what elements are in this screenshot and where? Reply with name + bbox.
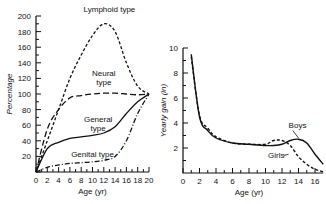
- x-tick-label: 4: [56, 176, 61, 185]
- x-tick-label: 6: [230, 177, 235, 186]
- y-tick-label: 120: [18, 74, 32, 83]
- x-tick-label: 8: [79, 176, 84, 185]
- annotation-general: General: [84, 115, 113, 124]
- y-axis-label: Yearly gain (in): [159, 83, 168, 137]
- left-chart: [36, 16, 149, 172]
- growth-charts: 2040608010012014016018020002468101214161…: [0, 0, 326, 204]
- y-tick-label: 40: [22, 137, 31, 146]
- x-tick-label: 10: [88, 176, 97, 185]
- y-tick-label: 100: [18, 90, 32, 99]
- y-tick-label: 20: [22, 152, 31, 161]
- x-axis-label: Age (yr): [235, 188, 264, 197]
- annotation-neural-type: type: [96, 78, 112, 87]
- annotation-lymphoid: Lymphoid type: [84, 5, 136, 14]
- y-tick-label: 80: [22, 106, 31, 115]
- annotation-general-type: type: [91, 124, 107, 133]
- x-tick-label: 18: [133, 176, 142, 185]
- series-general-type: [36, 94, 149, 172]
- y-tick-label: 160: [18, 43, 32, 52]
- y-tick-label: 8: [174, 69, 179, 78]
- x-tick-label: 8: [247, 177, 252, 186]
- x-tick-label: 16: [122, 176, 131, 185]
- series-genital-type: [36, 94, 149, 172]
- y-axis-label: Percentage: [5, 73, 14, 114]
- y-tick-label: 10: [169, 44, 178, 53]
- x-tick-label: 14: [111, 176, 120, 185]
- right-chart: [183, 48, 323, 173]
- y-tick-label: 180: [18, 28, 32, 37]
- annotation-genital: Genital type: [71, 150, 114, 159]
- x-tick-label: 0: [34, 176, 39, 185]
- x-tick-label: 4: [214, 177, 219, 186]
- x-tick-label: 12: [278, 177, 287, 186]
- right-axes: [183, 48, 323, 173]
- x-tick-label: 16: [311, 177, 320, 186]
- x-tick-label: 10: [261, 177, 270, 186]
- annotation-girls: Girls: [268, 151, 284, 160]
- x-axis-label: Age (yr): [78, 187, 107, 196]
- annotation-boys: Boys: [289, 121, 307, 130]
- x-tick-label: 2: [45, 176, 50, 185]
- x-tick-label: 20: [145, 176, 154, 185]
- annotation-neural: Neural: [92, 69, 116, 78]
- series-boys: [191, 54, 323, 164]
- series-girls: [191, 57, 323, 172]
- y-tick-label: 4: [174, 119, 179, 128]
- y-tick-label: 6: [174, 94, 179, 103]
- x-tick-label: 0: [181, 177, 186, 186]
- y-tick-label: 200: [18, 12, 32, 21]
- y-tick-label: 2: [174, 144, 179, 153]
- x-tick-label: 2: [197, 177, 202, 186]
- y-tick-label: 60: [22, 121, 31, 130]
- x-tick-label: 14: [294, 177, 303, 186]
- x-tick-label: 6: [68, 176, 73, 185]
- y-tick-label: 140: [18, 59, 32, 68]
- x-tick-label: 12: [99, 176, 108, 185]
